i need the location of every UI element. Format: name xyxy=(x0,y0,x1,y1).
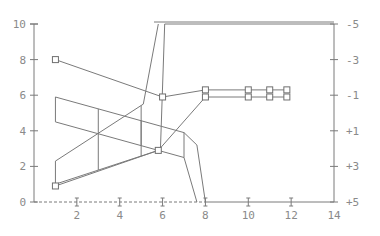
data-point-marker xyxy=(267,87,273,93)
x-tick-label: 4 xyxy=(116,209,123,222)
series-rising-band-high xyxy=(55,24,158,161)
data-point-marker xyxy=(284,94,290,100)
x-tick-label: 10 xyxy=(242,209,255,222)
series-rising-band-low xyxy=(55,150,158,184)
data-point-marker xyxy=(245,87,251,93)
y-tick-label: 8 xyxy=(19,54,26,67)
y-tick-label: 4 xyxy=(19,125,26,138)
x-tick-label: 12 xyxy=(285,209,298,222)
x-tick-label: 2 xyxy=(74,209,81,222)
y2-tick-label: -3 xyxy=(346,54,359,67)
y-tick-label: 6 xyxy=(19,89,26,102)
data-point-marker xyxy=(160,94,166,100)
x-tick-label: 14 xyxy=(327,209,341,222)
y2-tick-label: -1 xyxy=(346,89,359,102)
y2-tick-label: +3 xyxy=(346,160,359,173)
data-point-marker xyxy=(155,147,161,153)
data-point-marker xyxy=(267,94,273,100)
y-tick-label: 0 xyxy=(19,196,26,209)
data-point-marker xyxy=(202,94,208,100)
x-tick-label: 8 xyxy=(202,209,209,222)
x-tick-label: 6 xyxy=(159,209,166,222)
data-point-marker xyxy=(284,87,290,93)
data-point-marker xyxy=(52,183,58,189)
data-point-marker xyxy=(202,87,208,93)
data-point-marker xyxy=(245,94,251,100)
line-chart: 0246810-5-3-1+1+3+52468101214 xyxy=(0,0,380,236)
series-upper-marked xyxy=(55,60,287,97)
y2-tick-label: +5 xyxy=(346,196,359,209)
data-point-marker xyxy=(52,57,58,63)
y2-tick-label: -5 xyxy=(346,18,359,31)
y-tick-label: 10 xyxy=(13,18,26,31)
chart-container: 0246810-5-3-1+1+3+52468101214 xyxy=(0,0,380,236)
y2-tick-label: +1 xyxy=(346,125,359,138)
y-tick-label: 2 xyxy=(19,160,26,173)
